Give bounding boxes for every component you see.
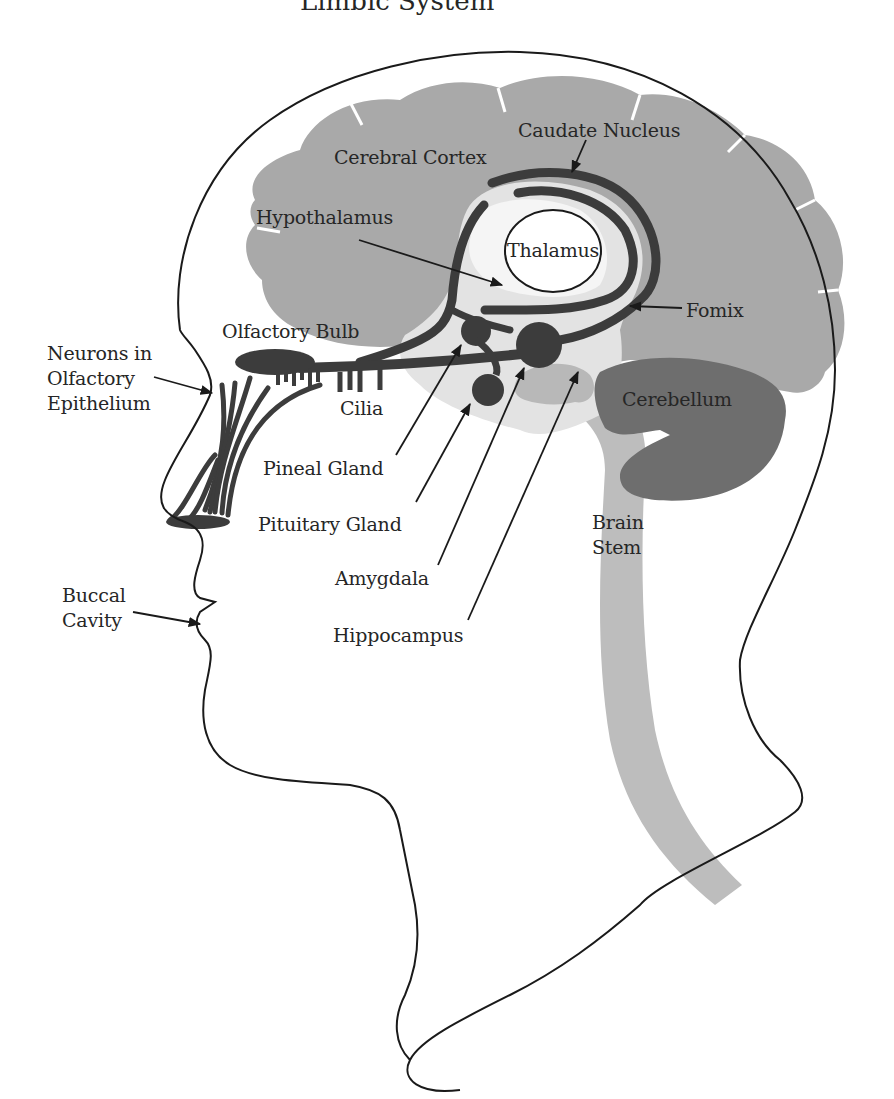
label-hypothalamus: Hypothalamus	[256, 205, 393, 230]
arrow-buccal	[133, 612, 200, 624]
label-fornix: Fomix	[686, 298, 743, 323]
pituitary-gland-shape	[472, 374, 504, 406]
label-neurons-olfactory-epithelium: Neurons in Olfactory Epithelium	[47, 341, 152, 416]
label-buccal-cavity: Buccal Cavity	[62, 583, 126, 633]
arrow-neurons	[154, 377, 212, 393]
limbic-system-diagram: Limbic System Cerebral Cortex Caudate Nu…	[0, 0, 894, 1099]
label-cerebral-cortex: Cerebral Cortex	[334, 145, 486, 170]
label-pineal-gland: Pineal Gland	[263, 456, 383, 481]
label-amygdala: Amygdala	[335, 566, 429, 591]
label-cerebellum: Cerebellum	[622, 387, 732, 412]
cerebellum-shape	[595, 358, 786, 501]
label-hippocampus: Hippocampus	[333, 623, 463, 648]
label-caudate-nucleus: Caudate Nucleus	[518, 118, 680, 143]
arrow-pituitary	[416, 404, 470, 502]
label-cilia: Cilia	[340, 396, 383, 421]
olfactory-neurons	[170, 378, 320, 520]
label-pituitary-gland: Pituitary Gland	[258, 512, 402, 537]
label-thalamus: Thalamus	[507, 238, 599, 263]
cilia-strands	[340, 368, 380, 392]
diagram-title: Limbic System	[300, 0, 494, 16]
amygdala-shape	[516, 322, 562, 368]
label-brain-stem: Brain Stem	[592, 510, 644, 560]
label-olfactory-bulb: Olfactory Bulb	[222, 319, 359, 344]
